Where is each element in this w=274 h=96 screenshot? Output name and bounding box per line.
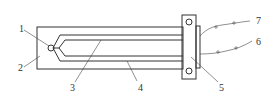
leader-5 [191,57,218,82]
label-3: 3 [70,82,75,93]
label-7: 7 [256,15,261,26]
lead-wire-6 [200,41,252,54]
diagram-canvas: 1 2 3 4 5 6 7 [0,0,274,96]
label-1: 1 [19,23,24,34]
inner-u-tube [59,40,183,56]
label-2: 2 [18,62,23,73]
label-4: 4 [138,82,143,93]
label-5: 5 [219,82,224,93]
flange-hole-top [186,19,192,25]
leader-2 [24,56,40,67]
flange-hole-bottom [186,68,192,74]
label-6: 6 [256,36,261,47]
leader-4 [127,61,137,81]
terminal-block [196,26,200,68]
outer-u-tube [53,35,183,61]
lead-wire-7 [200,21,250,36]
